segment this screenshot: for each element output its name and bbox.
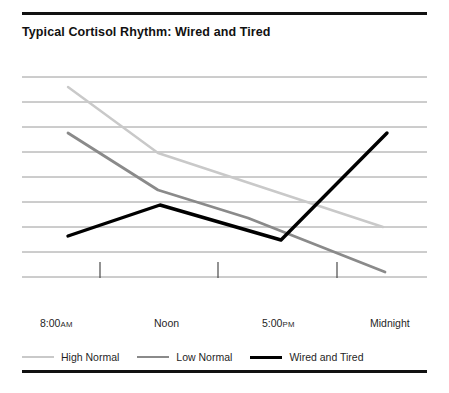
gridlines (22, 77, 427, 277)
series-line-high-normal (68, 87, 383, 227)
legend-item-wired-and-tired: Wired and Tired (250, 350, 363, 364)
x-tick-text-0: 8:00 (40, 317, 60, 329)
x-tick-label-2: 5:00PM (262, 316, 295, 332)
line-chart-plot (0, 0, 449, 300)
legend-swatch-icon-low-normal (137, 356, 169, 358)
x-axis-ticks (100, 262, 337, 278)
x-tick-label-1: Noon (154, 316, 179, 332)
x-tick-meridiem-0: AM (60, 320, 72, 329)
chart-page: Typical Cortisol Rhythm: Wired and Tired… (0, 0, 449, 393)
x-tick-text-2: 5:00 (262, 317, 282, 329)
series-line-wired-and-tired (68, 133, 387, 240)
bottom-divider (22, 370, 427, 373)
legend-swatch-icon-wired-and-tired (250, 356, 282, 359)
x-tick-label-0: 8:00AM (40, 316, 73, 332)
x-tick-text-3: Midnight (370, 317, 410, 329)
legend-label-wired-and-tired: Wired and Tired (289, 350, 363, 364)
x-axis-labels: 8:00AM Noon 5:00PM Midnight (22, 316, 427, 332)
x-tick-label-3: Midnight (370, 316, 410, 332)
legend-swatch-icon-high-normal (22, 356, 54, 358)
legend-label-high-normal: High Normal (61, 350, 119, 364)
chart-legend: High Normal Low Normal Wired and Tired (22, 348, 432, 366)
legend-item-low-normal: Low Normal (137, 350, 232, 364)
legend-label-low-normal: Low Normal (176, 350, 232, 364)
x-tick-meridiem-2: PM (282, 320, 294, 329)
x-tick-text-1: Noon (154, 317, 179, 329)
legend-item-high-normal: High Normal (22, 350, 119, 364)
